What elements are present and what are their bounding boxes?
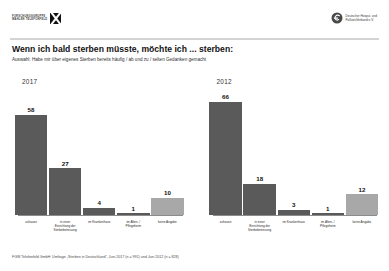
charts-container: 2017 58 27 4 1 bbox=[0, 70, 389, 242]
bar-value: 27 bbox=[62, 161, 69, 167]
bar-group-2012: 66 18 3 1 12 bbox=[209, 94, 380, 215]
category-label: im Krankenhaus bbox=[83, 218, 115, 224]
plot-area-2017: 58 27 4 1 10 bbox=[14, 94, 185, 216]
source-note: FGW Telefonfeld GmbH: Umfrage „Sterben i… bbox=[12, 255, 377, 259]
bar-value: 18 bbox=[256, 176, 263, 182]
page-subtitle: Auswahl: Habe mir über eigenes Sterben b… bbox=[12, 57, 377, 62]
bar-group-2017: 58 27 4 1 10 bbox=[14, 94, 185, 215]
plot-area-2012: 66 18 3 1 12 bbox=[209, 94, 380, 216]
header-divider bbox=[10, 38, 379, 40]
bar bbox=[83, 208, 115, 215]
x-mark-icon bbox=[50, 13, 61, 24]
bar bbox=[209, 102, 241, 215]
category-label: in einer Einrichtung der Sterbebetreuung bbox=[49, 218, 81, 233]
left-logo-text: FORSCHUNGSGRUPPEWAHLEN TELEFONFELD bbox=[12, 15, 47, 22]
bar-value: 1 bbox=[132, 206, 135, 212]
category-labels-2017: zuhause in einer Einrichtung der Sterbeb… bbox=[14, 218, 185, 240]
bar-value: 3 bbox=[292, 202, 295, 208]
bar-slot: 3 bbox=[278, 94, 310, 215]
bar-value: 4 bbox=[98, 200, 101, 206]
slide-header: FORSCHUNGSGRUPPEWAHLEN TELEFONFELD Deuts… bbox=[0, 0, 389, 36]
swirl-circle-icon bbox=[331, 12, 343, 24]
category-label: keine Angabe bbox=[151, 218, 183, 224]
dhpv-logo: Deutscher Hospiz- undPalliativVerband e.… bbox=[331, 12, 377, 24]
bar-slot: 12 bbox=[346, 94, 378, 215]
category-label: im Krankenhaus bbox=[278, 218, 310, 224]
bar-value: 1 bbox=[326, 206, 329, 212]
bar-value: 10 bbox=[164, 190, 171, 196]
category-label: in einer Einrichtung der Sterbebetreuung bbox=[243, 218, 275, 233]
right-logo-text: Deutscher Hospiz- undPalliativVerband e.… bbox=[346, 14, 377, 23]
bar-slot: 1 bbox=[117, 94, 149, 215]
bar-slot: 4 bbox=[83, 94, 115, 215]
axis-baseline bbox=[18, 215, 183, 216]
bar bbox=[346, 194, 378, 215]
bar-slot: 27 bbox=[49, 94, 81, 215]
bar-slot: 10 bbox=[151, 94, 183, 215]
category-label: zuhause bbox=[15, 218, 47, 224]
right-logo-line2: PalliativVerband e.V. bbox=[346, 18, 374, 22]
bar bbox=[243, 184, 275, 215]
category-label: zuhause bbox=[209, 218, 241, 224]
category-label: im Alten- / Pflegeheim bbox=[312, 218, 344, 228]
bar bbox=[151, 198, 183, 215]
chart-title-2017: 2017 bbox=[22, 78, 37, 85]
chart-panel-2012: 2012 66 18 3 1 bbox=[195, 70, 389, 242]
bar-value: 12 bbox=[358, 187, 365, 193]
page-title: Wenn ich bald sterben müsste, möchte ich… bbox=[12, 44, 377, 54]
bar bbox=[15, 115, 47, 215]
left-logo-line2: WAHLEN TELEFONFELD bbox=[12, 18, 47, 21]
bar-value: 58 bbox=[28, 107, 35, 113]
chart-panel-2017: 2017 58 27 4 1 bbox=[0, 70, 195, 242]
title-block: Wenn ich bald sterben müsste, möchte ich… bbox=[12, 44, 377, 62]
axis-baseline bbox=[213, 215, 378, 216]
bar-slot: 18 bbox=[243, 94, 275, 215]
bar bbox=[49, 168, 81, 215]
category-label: im Alten- / Pflegeheim bbox=[117, 218, 149, 228]
bar-slot: 1 bbox=[312, 94, 344, 215]
category-labels-2012: zuhause in einer Einrichtung der Sterbeb… bbox=[209, 218, 380, 240]
forschungsgruppe-wahlen-telefonfeld-logo: FORSCHUNGSGRUPPEWAHLEN TELEFONFELD bbox=[12, 13, 61, 24]
bar-value: 66 bbox=[222, 94, 229, 100]
chart-title-2012: 2012 bbox=[217, 78, 232, 85]
category-label: keine Angabe bbox=[346, 218, 378, 224]
bar-slot: 66 bbox=[209, 94, 241, 215]
bar-slot: 58 bbox=[15, 94, 47, 215]
